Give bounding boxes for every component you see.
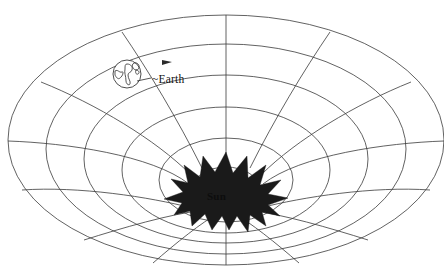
orbit-direction-arrow-icon [162, 60, 172, 65]
earth-label: ~Earth [152, 73, 184, 85]
grid-spoke-l1 [122, 32, 202, 168]
grid-spokes-upper [8, 15, 444, 265]
grid-spoke-l2 [41, 82, 190, 174]
grid-spoke-r1 [250, 32, 330, 168]
earth-group [113, 60, 141, 88]
sun-starburst [164, 152, 288, 232]
orbit-arrow-group [162, 60, 172, 65]
spacetime-diagram: ~Earth Sun [0, 0, 444, 280]
grid-spoke-l3 [8, 141, 189, 184]
sun-label: Sun [207, 190, 226, 202]
sun-group [164, 152, 288, 232]
grid-spoke-r3 [263, 141, 444, 184]
diagram-canvas [0, 0, 444, 280]
grid-spoke-r2 [262, 82, 411, 174]
